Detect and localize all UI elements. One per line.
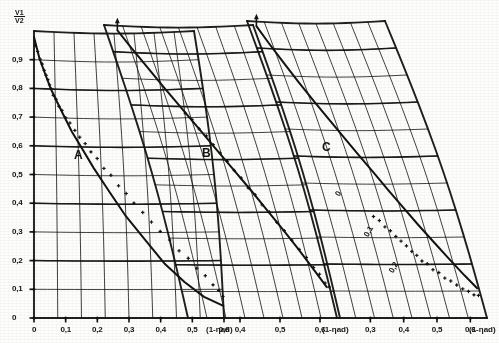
x-tick-A-5: 0,5 (187, 325, 198, 334)
x-axis-label-A: (1-ηad) (206, 325, 233, 334)
y-tick-8: 0,8 (12, 83, 23, 92)
y-tick-2: 0,2 (12, 256, 23, 265)
y-tick-0: 0 (12, 313, 16, 322)
y-tick-7: 0,7 (12, 112, 23, 121)
x-tick-A-0: 0 (32, 325, 36, 334)
y-tick-9: 0,9 (12, 55, 23, 64)
x-tick-A-2: 0,2 (92, 325, 103, 334)
x-tick-A-1: 0,1 (60, 325, 71, 334)
figure-canvas: V1 V2 00,10,20,30,40,50,60,70,80,900,10,… (0, 0, 499, 343)
x-axis-label-C: (1-ηad) (469, 325, 496, 334)
x-tick-C-1: 0,4 (398, 325, 409, 334)
grid-layer (34, 21, 487, 318)
x-tick-C-2: 0,5 (432, 325, 443, 334)
y-tick-1: 0,1 (12, 284, 23, 293)
y-axis-label: V1 V2 (14, 9, 25, 24)
x-axis-label-B: (1-ηad) (322, 325, 349, 334)
y-axis-numerator: V1 (14, 9, 25, 17)
y-tick-3: 0,3 (12, 227, 23, 236)
x-tick-A-4: 0,4 (155, 325, 166, 334)
y-tick-6: 0,6 (12, 141, 23, 150)
chart-svg (0, 0, 499, 343)
x-tick-B-0: 0,4 (235, 325, 246, 334)
panel-label-A: A (74, 148, 83, 162)
y-axis-denominator: V2 (14, 17, 25, 24)
panel-label-C: C (322, 140, 331, 154)
x-tick-A-3: 0,3 (124, 325, 135, 334)
y-tick-4: 0,4 (12, 198, 23, 207)
x-tick-B-1: 0,5 (275, 325, 286, 334)
y-tick-5: 0,5 (12, 170, 23, 179)
x-tick-C-0: 0,3 (365, 325, 376, 334)
panel-label-B: B (202, 146, 211, 160)
